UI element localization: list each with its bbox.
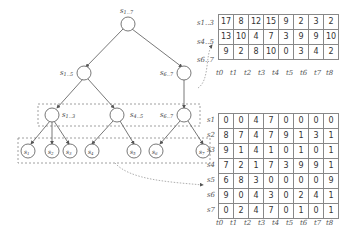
table-cell: 3: [309, 15, 324, 30]
table-cell: 0: [219, 114, 234, 129]
table-cell: 3: [264, 189, 279, 204]
table-cell: 4: [249, 144, 264, 159]
table-cell: 0: [219, 204, 234, 219]
table-cell: 0: [279, 114, 294, 129]
table-cell: 1: [324, 204, 339, 219]
table-cell: 0: [279, 144, 294, 159]
table-cell: 9: [219, 144, 234, 159]
table-cell: 0: [279, 174, 294, 189]
node-label-root: s1..7: [120, 7, 134, 15]
table-cell: 0: [279, 204, 294, 219]
table-cell: 0: [294, 114, 309, 129]
table-cell: 0: [309, 174, 324, 189]
table-cell: 9: [294, 30, 309, 45]
bottom-table: 00470000 87479131 91410101 72173991 6830…: [218, 113, 339, 219]
table-cell: 2: [234, 45, 249, 60]
table-cell: 4: [309, 189, 324, 204]
table-cell: 0: [324, 114, 339, 129]
table-cell: 10: [324, 30, 339, 45]
table-cell: 3: [249, 174, 264, 189]
table-cell: 1: [249, 159, 264, 174]
table-cell: 0: [264, 174, 279, 189]
table-cell: 0: [294, 174, 309, 189]
table-cell: 1: [324, 159, 339, 174]
table-cell: 4: [249, 114, 264, 129]
svg-text:s1..3: s1..3: [62, 111, 75, 119]
table-cell: 9: [279, 129, 294, 144]
table-cell: 9: [279, 15, 294, 30]
table-cell: 0: [309, 144, 324, 159]
table-cell: 2: [324, 45, 339, 60]
table-cell: 7: [264, 114, 279, 129]
table-cell: 8: [249, 45, 264, 60]
table-cell: 4: [249, 129, 264, 144]
table-cell: 7: [264, 30, 279, 45]
table-cell: 3: [279, 159, 294, 174]
table-cell: 0: [234, 189, 249, 204]
table-cell: 2: [294, 189, 309, 204]
table-cell: 4: [309, 45, 324, 60]
table-cell: 4: [249, 189, 264, 204]
table-cell: 6: [219, 174, 234, 189]
table-cell: 7: [234, 129, 249, 144]
table-cell: 8: [234, 15, 249, 30]
table-cell: 1: [294, 204, 309, 219]
table-cell: 10: [234, 30, 249, 45]
top-table: 17812159232 13104739910 928100342: [218, 14, 339, 60]
table-cell: 2: [234, 204, 249, 219]
table-cell: 3: [309, 129, 324, 144]
table-cell: 0: [279, 45, 294, 60]
row-label: s6..7: [197, 56, 214, 64]
table-cell: 1: [324, 144, 339, 159]
table-cell: 13: [219, 30, 234, 45]
table-cell: 9: [309, 30, 324, 45]
svg-text:s1..5: s1..5: [60, 69, 73, 77]
table-cell: 4: [249, 204, 264, 219]
table-cell: 1: [294, 129, 309, 144]
table-cell: 4: [249, 30, 264, 45]
table-cell: 9: [219, 45, 234, 60]
table-cell: 15: [264, 15, 279, 30]
table-cell: 1: [324, 129, 339, 144]
table-cell: 10: [264, 45, 279, 60]
table-cell: 3: [279, 30, 294, 45]
table-cell: 7: [219, 159, 234, 174]
table-cell: 2: [324, 15, 339, 30]
svg-text:s6..7: s6..7: [160, 111, 174, 119]
row-label: s4..5: [197, 38, 214, 46]
table-cell: 8: [234, 174, 249, 189]
table-cell: 1: [294, 144, 309, 159]
row-label: s1..3: [197, 19, 214, 27]
table-cell: 1: [264, 144, 279, 159]
table-cell: 0: [309, 204, 324, 219]
table-cell: 9: [324, 174, 339, 189]
table-cell: 12: [249, 15, 264, 30]
table-cell: 2: [234, 159, 249, 174]
svg-text:s4..5: s4..5: [130, 111, 143, 119]
table-cell: 1: [234, 144, 249, 159]
table-cell: 1: [324, 189, 339, 204]
table-cell: 3: [294, 45, 309, 60]
table-cell: 9: [219, 189, 234, 204]
table-cell: 0: [279, 189, 294, 204]
table-cell: 2: [294, 15, 309, 30]
table-cell: 9: [294, 159, 309, 174]
table-cell: 9: [309, 159, 324, 174]
table-cell: 8: [219, 129, 234, 144]
table-cell: 17: [219, 15, 234, 30]
table-cell: 0: [309, 114, 324, 129]
table-cell: 7: [264, 129, 279, 144]
table-cell: 7: [264, 159, 279, 174]
svg-text:s6..7: s6..7: [160, 69, 174, 77]
table-cell: 0: [234, 114, 249, 129]
table-cell: 7: [264, 204, 279, 219]
